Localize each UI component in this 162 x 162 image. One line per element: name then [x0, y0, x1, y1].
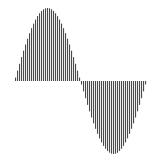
sine-bar: [61, 24, 62, 81]
sine-bar: [109, 81, 110, 153]
sine-bar: [33, 24, 34, 81]
sine-bar: [65, 33, 66, 81]
sine-bar: [81, 81, 82, 84]
sine-bar: [145, 81, 146, 84]
sine-bar: [47, 8, 48, 81]
sine-bar: [137, 81, 138, 111]
sine-bar: [69, 45, 70, 82]
sine-bar: [115, 81, 116, 154]
sine-bar: [79, 78, 80, 81]
sine-bar: [39, 13, 40, 81]
sine-bar: [113, 81, 114, 154]
sine-bar: [91, 81, 92, 118]
sine-bar: [37, 16, 38, 81]
sine-bar: [63, 28, 64, 81]
sine-bar: [119, 81, 120, 151]
sine-bar: [101, 81, 102, 142]
sine-bar: [127, 81, 128, 138]
sine-bar: [27, 39, 28, 81]
sine-bar: [129, 81, 130, 134]
sine-bar: [43, 9, 44, 81]
sine-bar: [55, 13, 56, 81]
sine-bar: [73, 57, 74, 81]
sine-bar: [89, 81, 90, 111]
sine-bar: [29, 33, 30, 81]
sine-bar: [111, 81, 112, 154]
sine-bar: [19, 64, 20, 81]
sine-bar: [51, 9, 52, 81]
sine-bar: [59, 20, 60, 81]
sine-bar: [117, 81, 118, 153]
sine-bar: [25, 45, 26, 82]
sine-bar: [31, 28, 32, 81]
sine-bar: [97, 81, 98, 134]
sine-bar: [103, 81, 104, 146]
sine-wave-stem-chart: [0, 0, 162, 162]
sine-bar: [45, 8, 46, 81]
sine-bar: [105, 81, 106, 149]
sine-bar: [87, 81, 88, 105]
sine-bar: [141, 81, 142, 98]
sine-bar: [23, 51, 24, 81]
sine-bar: [123, 81, 124, 146]
sine-bar: [15, 78, 16, 81]
sine-bar: [85, 81, 86, 98]
sine-bar: [77, 71, 78, 81]
sine-bar: [75, 64, 76, 81]
sine-bar: [139, 81, 140, 105]
sine-bar: [67, 39, 68, 81]
sine-bar: [133, 81, 134, 123]
sine-bar: [131, 81, 132, 129]
sine-bars: [15, 8, 146, 154]
sine-bar: [125, 81, 126, 142]
sine-bar: [95, 81, 96, 129]
sine-bar: [35, 20, 36, 81]
sine-bar: [107, 81, 108, 151]
sine-bar: [99, 81, 100, 138]
sine-bar: [135, 81, 136, 118]
sine-bar: [71, 51, 72, 81]
sine-bar: [143, 81, 144, 91]
sine-bar: [17, 71, 18, 81]
sine-bar: [121, 81, 122, 149]
sine-bar: [21, 57, 22, 81]
sine-bar: [93, 81, 94, 123]
sine-bar: [41, 11, 42, 81]
sine-bar: [49, 8, 50, 81]
sine-bar: [83, 81, 84, 91]
sine-bar: [57, 16, 58, 81]
sine-bar: [53, 11, 54, 81]
